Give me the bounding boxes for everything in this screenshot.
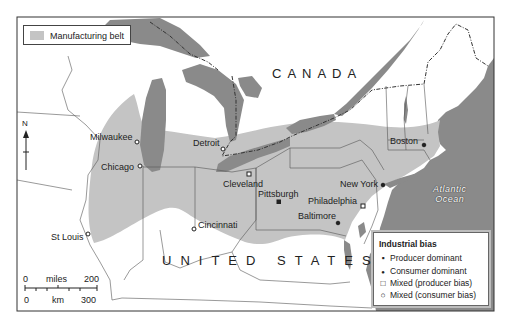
- country-label-us: UNITED STATES: [162, 254, 380, 267]
- city-label-cincinnati: Cincinnati: [198, 221, 238, 230]
- filled-circle-icon: ●: [379, 269, 387, 275]
- marker-new-york: [381, 183, 385, 187]
- bias-legend-title: Industrial bias: [379, 239, 437, 249]
- scale-miles-start: 0: [23, 275, 28, 284]
- marker-detroit: [221, 147, 225, 151]
- marker-boston: [422, 143, 426, 147]
- marker-cincinnati: [192, 227, 196, 231]
- city-label-st-louis: St Louis: [51, 233, 84, 242]
- city-label-pittsburgh: Pittsburgh: [258, 190, 299, 199]
- scale-miles-label: miles: [46, 275, 67, 284]
- bias-legend-item: □Mixed (producer bias): [379, 278, 472, 288]
- scale-km-end: 300: [81, 296, 96, 305]
- city-label-detroit: Detroit: [193, 139, 220, 148]
- belt-swatch: [30, 31, 44, 40]
- bias-legend-item: ▪Producer dominant: [379, 253, 462, 263]
- filled-square-icon: ▪: [379, 253, 387, 263]
- bias-legend-item: ○Mixed (consumer bias): [379, 290, 476, 300]
- north-label: N: [22, 120, 28, 128]
- scale-km-start: 0: [24, 296, 29, 305]
- open-circle-icon: ○: [379, 290, 387, 300]
- bias-legend-item-label: Mixed (producer bias): [390, 278, 472, 288]
- country-label-canada: CANADA: [272, 67, 362, 80]
- industrial-bias-legend: Industrial bias ▪Producer dominant ●Cons…: [373, 232, 489, 306]
- marker-chicago: [138, 164, 142, 168]
- bias-legend-item-label: Producer dominant: [390, 253, 462, 263]
- open-square-icon: □: [379, 278, 387, 288]
- marker-baltimore: [336, 221, 340, 225]
- marker-milwaukee: [135, 140, 139, 144]
- scale-km-label: km: [52, 296, 64, 305]
- marker-pittsburgh: [277, 200, 281, 204]
- marker-philadelphia: [361, 204, 365, 208]
- city-label-chicago: Chicago: [101, 163, 134, 172]
- city-label-philadelphia: Philadelphia: [308, 197, 357, 206]
- city-label-cleveland: Cleveland: [223, 180, 263, 189]
- marker-cleveland: [247, 172, 251, 176]
- city-label-milwaukee: Milwaukee: [90, 133, 133, 142]
- bias-legend-item-label: Mixed (consumer bias): [390, 290, 476, 300]
- bias-legend-item: ●Consumer dominant: [379, 266, 467, 276]
- marker-st-louis: [86, 232, 90, 236]
- city-label-baltimore: Baltimore: [298, 212, 336, 221]
- ocean-label: Atlantic Ocean: [433, 185, 467, 205]
- belt-legend-label: Manufacturing belt: [50, 31, 124, 41]
- ocean-label-line2: Ocean: [433, 195, 467, 205]
- scale-miles-end: 200: [84, 275, 99, 284]
- bias-legend-item-label: Consumer dominant: [390, 266, 467, 276]
- city-label-new-york: New York: [340, 180, 378, 189]
- city-label-boston: Boston: [390, 137, 418, 146]
- manufacturing-belt-legend: Manufacturing belt: [23, 25, 131, 45]
